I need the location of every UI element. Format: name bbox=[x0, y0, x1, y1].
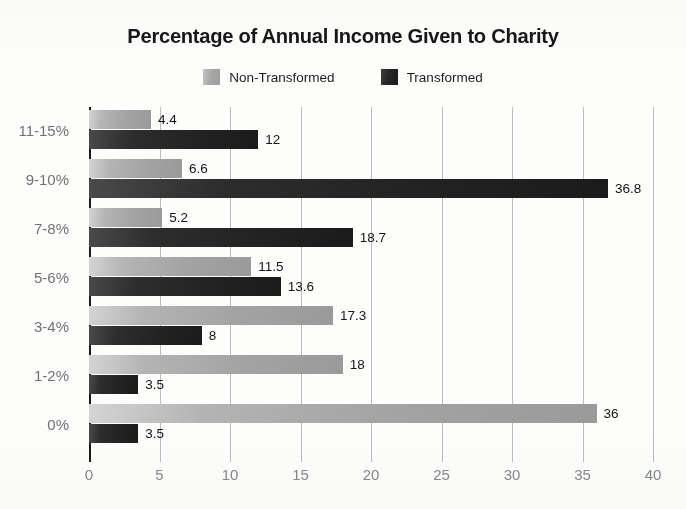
bar-group: 183.5 bbox=[89, 355, 653, 396]
bar-transformed[interactable] bbox=[89, 375, 138, 394]
x-axis-tick-15 bbox=[301, 455, 302, 462]
bar-non-transformed[interactable] bbox=[89, 306, 333, 325]
bar-value-label: 36 bbox=[604, 406, 619, 421]
bar-value-label: 3.5 bbox=[145, 426, 164, 441]
bar-value-label: 17.3 bbox=[340, 308, 366, 323]
x-axis-label-35: 35 bbox=[574, 466, 591, 483]
bar-rows: 4.4126.636.85.218.711.513.617.38183.5363… bbox=[89, 107, 653, 455]
x-axis-label-40: 40 bbox=[645, 466, 662, 483]
bar-row: 3.5 bbox=[89, 375, 164, 394]
bar-value-label: 13.6 bbox=[288, 279, 314, 294]
bar-value-label: 3.5 bbox=[145, 377, 164, 392]
x-axis-label-15: 15 bbox=[292, 466, 309, 483]
bar-value-label: 12 bbox=[265, 132, 280, 147]
bar-row: 36.8 bbox=[89, 179, 641, 198]
bar-non-transformed[interactable] bbox=[89, 208, 162, 227]
bar-group: 17.38 bbox=[89, 306, 653, 347]
y-axis-category-labels: 11-15%9-10%7-8%5-6%3-4%1-2%0% bbox=[0, 107, 80, 455]
bar-transformed[interactable] bbox=[89, 277, 281, 296]
y-axis-label-3-4-: 3-4% bbox=[34, 306, 69, 347]
bar-transformed[interactable] bbox=[89, 326, 202, 345]
bar-non-transformed[interactable] bbox=[89, 355, 343, 374]
x-axis-tick-10 bbox=[230, 455, 231, 462]
bar-row: 17.3 bbox=[89, 306, 366, 325]
bar-group: 4.412 bbox=[89, 110, 653, 151]
legend-swatch-icon-transformed bbox=[381, 69, 398, 85]
bar-non-transformed[interactable] bbox=[89, 404, 597, 423]
legend-label-transformed: Transformed bbox=[407, 70, 483, 85]
bar-transformed[interactable] bbox=[89, 228, 353, 247]
bar-group: 6.636.8 bbox=[89, 159, 653, 200]
x-axis-tick-25 bbox=[442, 455, 443, 462]
bar-value-label: 18.7 bbox=[360, 230, 386, 245]
bar-row: 11.5 bbox=[89, 257, 283, 276]
bar-non-transformed[interactable] bbox=[89, 159, 182, 178]
x-axis-tick-0 bbox=[89, 455, 91, 462]
bar-row: 13.6 bbox=[89, 277, 314, 296]
legend-item-transformed[interactable]: Transformed bbox=[381, 69, 483, 85]
bar-row: 12 bbox=[89, 130, 280, 149]
legend-swatch-icon-non-transformed bbox=[203, 69, 220, 85]
bar-value-label: 18 bbox=[350, 357, 365, 372]
bar-group: 363.5 bbox=[89, 404, 653, 445]
bar-value-label: 6.6 bbox=[189, 161, 208, 176]
x-axis-tick-35 bbox=[583, 455, 584, 462]
bar-row: 18 bbox=[89, 355, 365, 374]
bar-row: 6.6 bbox=[89, 159, 208, 178]
y-axis-label-0-: 0% bbox=[47, 404, 69, 445]
legend-item-non-transformed[interactable]: Non-Transformed bbox=[203, 69, 334, 85]
bar-row: 18.7 bbox=[89, 228, 386, 247]
bar-non-transformed[interactable] bbox=[89, 257, 251, 276]
x-axis-label-30: 30 bbox=[504, 466, 521, 483]
bar-transformed[interactable] bbox=[89, 424, 138, 443]
x-axis-label-0: 0 bbox=[85, 466, 93, 483]
y-axis-label-5-6-: 5-6% bbox=[34, 257, 69, 298]
x-axis-label-20: 20 bbox=[363, 466, 380, 483]
bar-transformed[interactable] bbox=[89, 130, 258, 149]
x-axis-tick-5 bbox=[160, 455, 161, 462]
bar-row: 3.5 bbox=[89, 424, 164, 443]
chart-title: Percentage of Annual Income Given to Cha… bbox=[14, 24, 673, 48]
bar-group: 5.218.7 bbox=[89, 208, 653, 249]
x-axis-tick-20 bbox=[371, 455, 372, 462]
bar-value-label: 8 bbox=[209, 328, 217, 343]
plot-area: 4.4126.636.85.218.711.513.617.38183.5363… bbox=[89, 107, 653, 455]
y-axis-label-11-15-: 11-15% bbox=[18, 110, 69, 151]
x-axis-label-10: 10 bbox=[222, 466, 239, 483]
x-axis-tick-40 bbox=[653, 455, 654, 462]
bar-non-transformed[interactable] bbox=[89, 110, 151, 129]
y-axis-label-7-8-: 7-8% bbox=[34, 208, 69, 249]
y-axis-label-1-2-: 1-2% bbox=[34, 355, 69, 396]
bar-value-label: 11.5 bbox=[258, 259, 283, 274]
x-axis-tick-30 bbox=[512, 455, 513, 462]
x-axis-label-5: 5 bbox=[155, 466, 163, 483]
chart-container: Percentage of Annual Income Given to Cha… bbox=[0, 0, 686, 509]
bar-group: 11.513.6 bbox=[89, 257, 653, 298]
bar-value-label: 5.2 bbox=[169, 210, 188, 225]
x-axis: 0510152025303540 bbox=[89, 455, 653, 495]
bar-transformed[interactable] bbox=[89, 179, 608, 198]
gridline-40 bbox=[653, 107, 654, 455]
bar-value-label: 4.4 bbox=[158, 112, 177, 127]
bar-row: 8 bbox=[89, 326, 216, 345]
bar-row: 4.4 bbox=[89, 110, 177, 129]
x-axis-label-25: 25 bbox=[433, 466, 450, 483]
y-axis-label-9-10-: 9-10% bbox=[26, 159, 69, 200]
legend-label-non-transformed: Non-Transformed bbox=[229, 70, 334, 85]
bar-row: 36 bbox=[89, 404, 619, 423]
chart-legend: Non-Transformed Transformed bbox=[0, 69, 686, 85]
bar-value-label: 36.8 bbox=[615, 181, 641, 196]
bar-row: 5.2 bbox=[89, 208, 188, 227]
